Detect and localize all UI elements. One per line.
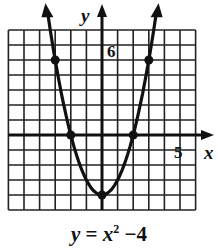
y-axis-label: y: [79, 5, 90, 26]
y-tick-label-6: 6: [107, 42, 116, 61]
parabola-graph: y x 6 5: [0, 0, 218, 252]
equation-caption: y = x2 −4: [0, 222, 218, 247]
x-tick-label-5: 5: [174, 143, 183, 162]
x-axis-label: x: [203, 142, 214, 163]
